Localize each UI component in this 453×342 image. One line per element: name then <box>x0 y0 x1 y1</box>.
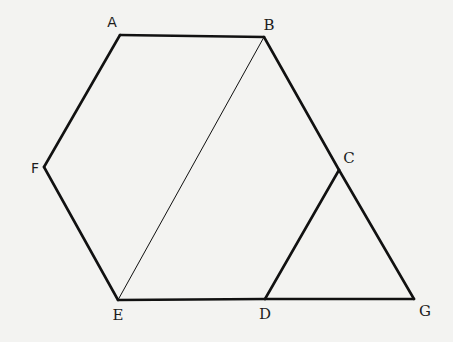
diagram-canvas <box>0 0 453 342</box>
label-b: B <box>263 18 274 33</box>
segment-fa <box>44 35 120 167</box>
segment-bc <box>264 37 339 170</box>
segment-ef <box>44 167 118 300</box>
geometry-diagram: A B C D E F G <box>0 0 453 342</box>
segment-be <box>118 37 264 300</box>
segment-de <box>118 299 265 300</box>
label-c: C <box>343 151 354 166</box>
label-f: F <box>31 161 39 175</box>
segment-ab <box>120 35 264 37</box>
segment-cd <box>265 170 339 299</box>
label-e: E <box>113 308 124 323</box>
label-g: G <box>419 304 431 319</box>
label-a: A <box>107 15 117 29</box>
segment-cg <box>339 170 414 299</box>
label-d: D <box>259 307 271 322</box>
